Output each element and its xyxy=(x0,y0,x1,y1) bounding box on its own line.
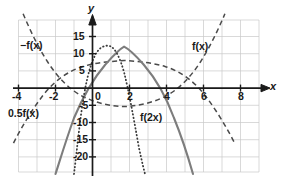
y-tick-label-neg10: -10 xyxy=(73,117,88,128)
x-tick-label-6: 6 xyxy=(201,91,207,102)
y-tick-label-neg15: -15 xyxy=(73,134,88,145)
function-plot xyxy=(0,0,281,176)
y-axis-label: y xyxy=(88,3,94,14)
curve-label-neg-f: −f(x) xyxy=(20,40,42,51)
x-tick-label-neg4: -4 xyxy=(12,91,21,102)
x-tick-label-4: 4 xyxy=(164,91,170,102)
curve-label-half-f: 0.5f(x) xyxy=(8,108,39,119)
y-tick-label-neg5: -5 xyxy=(79,100,88,111)
curve-label-f: f(x) xyxy=(192,41,208,52)
x-tick-label-8: 8 xyxy=(238,91,244,102)
x-tick-label-0: 0 xyxy=(95,91,101,102)
curve-label-f-2x: f(2x) xyxy=(140,112,162,123)
graph-figure: -4 -2 0 2 4 6 8 15 10 5 -5 -10 -15 -20 x… xyxy=(0,0,281,176)
x-tick-label-2: 2 xyxy=(127,91,133,102)
x-axis-arrow xyxy=(261,84,270,91)
x-tick-label-neg2: -2 xyxy=(49,91,58,102)
y-tick-label-5: 5 xyxy=(79,65,85,76)
y-tick-label-15: 15 xyxy=(73,31,85,42)
y-tick-label-neg20: -20 xyxy=(73,151,88,162)
y-tick-label-10: 10 xyxy=(73,48,85,59)
x-axis-label: x xyxy=(270,81,276,92)
